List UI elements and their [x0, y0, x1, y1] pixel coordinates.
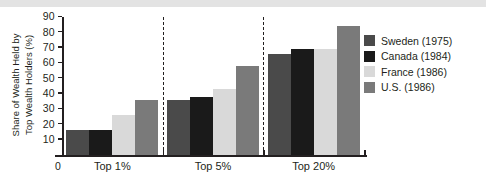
bar: [268, 54, 291, 155]
x-axis-line: [55, 155, 367, 157]
bar: [213, 89, 236, 155]
y-axis-tick: 90: [58, 16, 63, 18]
legend-label: U.S. (1986): [381, 81, 435, 93]
bar: [236, 66, 259, 155]
y-axis-tick-label: 60: [43, 56, 55, 68]
y-axis-tick-label: 70: [43, 41, 55, 53]
bar: [167, 100, 190, 155]
bar: [314, 49, 337, 155]
legend-item: Canada (1984): [364, 49, 452, 65]
legend-label: France (1986): [381, 66, 447, 78]
y-axis-label-line-2: Top Wealth Holders (%): [22, 34, 35, 137]
legend: Sweden (1975)Canada (1984)France (1986)U…: [364, 33, 452, 95]
x-axis-tick: [364, 150, 366, 156]
y-axis-tick-label: 80: [43, 26, 55, 38]
bar: [291, 49, 314, 155]
bar: [112, 115, 135, 155]
x-axis-group-label: Top 20%: [292, 160, 335, 172]
y-axis-label-line-1: Share of Wealth Held by: [10, 34, 23, 137]
legend-item: U.S. (1986): [364, 80, 452, 96]
bar: [190, 97, 213, 155]
group-separator: [263, 17, 264, 155]
y-axis-tick-label: 30: [43, 102, 55, 114]
y-axis-tick: 20: [58, 123, 63, 125]
y-axis-tick: 60: [58, 62, 63, 64]
x-axis-group-label: Top 5%: [195, 160, 232, 172]
legend-label: Canada (1984): [381, 50, 451, 62]
legend-item: Sweden (1975): [364, 33, 452, 49]
bar: [66, 130, 89, 155]
y-axis-line: [62, 17, 64, 155]
plot-area: 102030405060708090: [62, 17, 364, 155]
y-axis-tick-label: 20: [43, 118, 55, 130]
bar: [135, 100, 158, 155]
y-axis-tick-label: 10: [43, 133, 55, 145]
top-band: [0, 0, 486, 7]
y-axis-label: Share of Wealth Held by Top Wealth Holde…: [4, 14, 40, 156]
y-axis-tick: 80: [58, 31, 63, 33]
y-axis-tick-label: 40: [43, 87, 55, 99]
legend-swatch: [364, 66, 375, 77]
bar: [89, 130, 112, 155]
y-axis-tick-label: 50: [43, 72, 55, 84]
legend-swatch: [364, 82, 375, 93]
y-axis-tick: 10: [58, 138, 63, 140]
y-axis-tick: 50: [58, 77, 63, 79]
bar: [337, 26, 360, 155]
legend-swatch: [364, 51, 375, 62]
x-axis-tick: [62, 150, 64, 156]
legend-item: France (1986): [364, 64, 452, 80]
x-axis-group-label: Top 1%: [94, 160, 131, 172]
y-axis-tick-label: 90: [43, 10, 55, 22]
wealth-share-bar-chart: Share of Wealth Held by Top Wealth Holde…: [0, 0, 486, 187]
y-axis-tick: 30: [58, 108, 63, 110]
y-axis-origin-label: 0: [55, 160, 61, 172]
legend-label: Sweden (1975): [381, 35, 452, 47]
group-separator: [163, 17, 164, 155]
y-axis-tick: 70: [58, 46, 63, 48]
legend-swatch: [364, 35, 375, 46]
y-axis-tick: 40: [58, 92, 63, 94]
